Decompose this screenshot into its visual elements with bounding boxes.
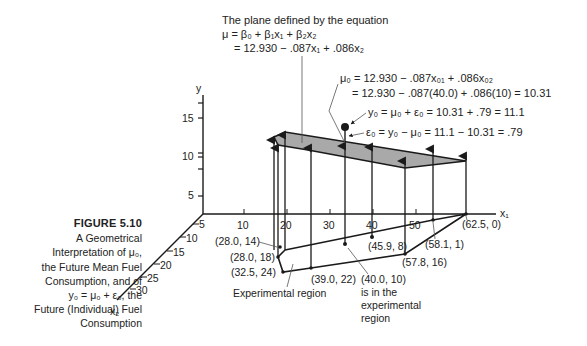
point-label: (58.1, 1) — [425, 238, 464, 250]
x2-tick: 30 — [136, 284, 148, 296]
point-label: (28.0, 18) — [230, 251, 275, 263]
mu0-annotation-line: μ₀ = 12.930 − .087x₀₁ + .086x₀₂ — [340, 72, 493, 84]
x1-tick: 10 — [237, 219, 249, 231]
mu0-annotation-line: = 12.930 − .087(40.0) + .086(10) = 10.31 — [352, 87, 551, 99]
point-label: (45.9, 8) — [368, 240, 407, 252]
point-label: (32.5, 24) — [231, 266, 276, 278]
x1-axis-label: x₁ — [500, 207, 509, 219]
new-point-label-line: experimental — [361, 299, 421, 311]
x2-tick: 5 — [199, 218, 205, 230]
point-labels: (28.0, 14) (28.0, 18) (32.5, 24) (39.0, … — [215, 216, 501, 285]
geometric-diagram: y 15 10 5 x₁ 10 20 30 40 50 x₂ 5 10 15 2… — [0, 0, 587, 346]
x2-axis: x₂ 5 10 15 20 25 30 — [110, 214, 205, 317]
y-tick: 5 — [188, 189, 194, 201]
new-point-label-line: region — [361, 312, 390, 324]
x2-tick: 15 — [173, 246, 185, 258]
plane-annotation-line: = 12.930 − .087x₁ + .086x₂ — [234, 42, 364, 54]
y-axis: y 15 10 5 — [182, 82, 203, 214]
plane-annotation-line: The plane defined by the equation — [222, 14, 388, 26]
y0-annotation: y₀ = μ₀ + ε₀ = 10.31 + .79 = 11.1 — [351, 106, 525, 124]
new-point-label-line: (40.0, 10) — [361, 273, 406, 285]
plane-annotation-line: μ = β₀ + β₁x₁ + β₂x₂ — [222, 28, 316, 40]
point-label: (57.8, 16) — [402, 256, 447, 268]
e0-equation: ε₀ = y₀ − μ₀ = 11.1 − 10.31 = .79 — [366, 126, 523, 138]
x2-tick: 10 — [186, 232, 198, 244]
y-tick: 15 — [182, 112, 194, 124]
x1-tick: 20 — [280, 219, 292, 231]
x1-tick: 30 — [323, 219, 335, 231]
new-point-label-line: is in the — [361, 286, 397, 298]
y-tick: 10 — [182, 150, 194, 162]
point-label: (28.0, 14) — [215, 235, 260, 247]
region-label: Experimental region — [233, 287, 327, 299]
point-label: (39.0, 22) — [311, 273, 356, 285]
x2-axis-label: x₂ — [110, 305, 119, 317]
y-axis-label: y — [196, 82, 202, 94]
point-label: (62.5, 0) — [462, 218, 501, 230]
e0-annotation: ε₀ = y₀ − μ₀ = 11.1 − 10.31 = .79 — [349, 126, 523, 138]
x2-tick: 25 — [147, 272, 159, 284]
y0-equation: y₀ = μ₀ + ε₀ = 10.31 + .79 = 11.1 — [368, 106, 525, 118]
x2-tick: 20 — [160, 259, 172, 271]
